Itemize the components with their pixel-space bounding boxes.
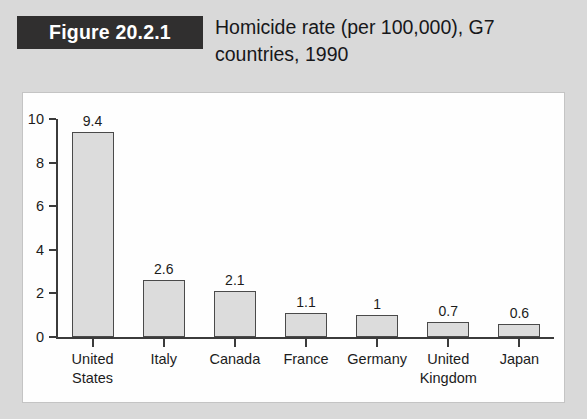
x-axis-tick-mark [518, 339, 520, 347]
y-axis-tick-mark [49, 336, 56, 338]
y-axis-tick-label: 2 [36, 285, 44, 301]
y-axis-tick-label: 6 [36, 198, 44, 214]
bar [498, 324, 540, 337]
x-axis-tick-mark [447, 339, 449, 347]
bar-value-label: 2.1 [205, 272, 265, 288]
bar [285, 313, 327, 337]
y-axis-tick-label: 8 [36, 155, 44, 171]
bar-value-label: 1 [347, 296, 407, 312]
y-axis-tick-mark [49, 205, 56, 207]
y-axis-tick-label: 4 [36, 242, 44, 258]
bar [356, 315, 398, 337]
x-axis-tick-mark [376, 339, 378, 347]
figure-number-label: Figure 20.2.1 [49, 23, 171, 43]
x-axis-tick-mark [234, 339, 236, 347]
bar-value-label: 0.6 [489, 305, 549, 321]
y-axis-line [56, 119, 58, 338]
bar [214, 291, 256, 337]
bar [143, 280, 185, 337]
figure-container: Figure 20.2.1 Homicide rate (per 100,000… [0, 0, 587, 419]
chart-panel: 0246810 9.4United States2.6Italy2.1Canad… [22, 92, 565, 403]
y-axis-tick: 8 [49, 162, 56, 164]
y-axis-tick-mark [49, 118, 56, 120]
bar-value-label: 0.7 [418, 303, 478, 319]
bar-value-label: 1.1 [276, 294, 336, 310]
y-axis-tick: 2 [49, 292, 56, 294]
bar-value-label: 9.4 [63, 113, 123, 129]
bar-value-label: 2.6 [134, 261, 194, 277]
x-axis-tick-mark [92, 339, 94, 347]
x-axis-category-label: Japan [474, 350, 564, 369]
y-axis-tick: 4 [49, 249, 56, 251]
y-axis-tick: 10 [49, 118, 56, 120]
bar [427, 322, 469, 337]
y-axis-tick-mark [49, 162, 56, 164]
figure-title: Homicide rate (per 100,000), G7 countrie… [215, 14, 565, 68]
y-axis-tick: 0 [49, 336, 56, 338]
x-axis-tick-mark [163, 339, 165, 347]
y-axis-tick: 6 [49, 205, 56, 207]
y-axis-tick-mark [49, 292, 56, 294]
figure-number-badge: Figure 20.2.1 [17, 16, 203, 49]
x-axis-tick-mark [305, 339, 307, 347]
y-axis-tick-mark [49, 249, 56, 251]
chart-plot-area: 0246810 9.4United States2.6Italy2.1Canad… [23, 93, 566, 404]
figure-header: Figure 20.2.1 Homicide rate (per 100,000… [17, 14, 562, 84]
bar [72, 132, 114, 337]
y-axis-tick-label: 0 [36, 329, 44, 345]
y-axis-tick-label: 10 [28, 111, 44, 127]
